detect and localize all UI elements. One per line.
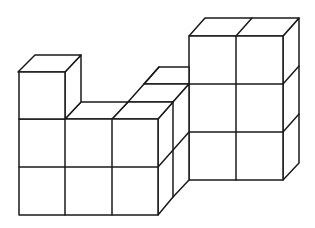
cube-diagram	[0, 0, 315, 228]
left-tower-top	[18, 55, 81, 119]
cube-stack-drawing	[0, 0, 315, 228]
right-tower	[189, 18, 299, 180]
